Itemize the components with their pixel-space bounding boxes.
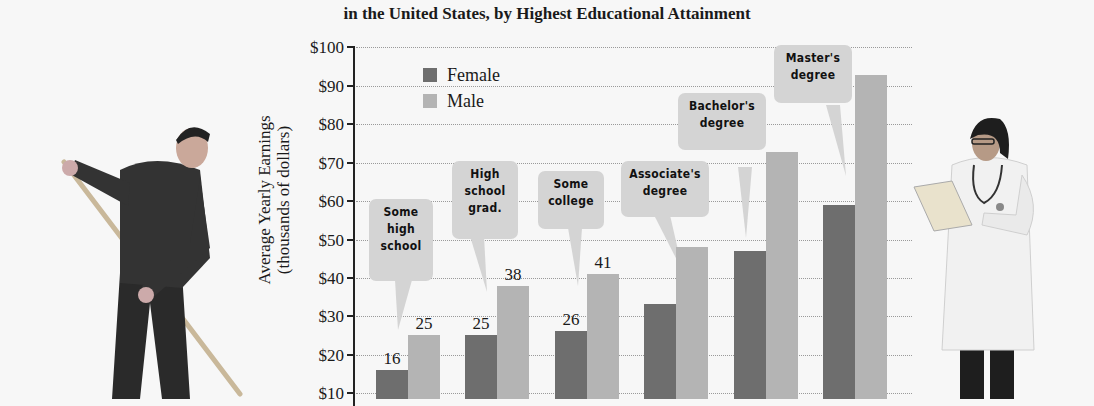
bar-male-associate: [676, 247, 708, 399]
bar-male-some-high-school: [408, 335, 440, 399]
bubble-text: school: [375, 238, 427, 255]
value-label: 16: [372, 350, 412, 367]
value-label: 38: [493, 266, 533, 283]
value-label: 25: [404, 315, 444, 332]
bubble-text: Associate's: [627, 166, 703, 183]
bar-male-hs-grad: [497, 286, 529, 399]
bar-male-master: [855, 75, 887, 399]
category-bubble-bachelor: Bachelor's degree: [678, 93, 766, 150]
bubble-text: Some: [375, 204, 427, 221]
bar-male-some-college: [587, 274, 619, 399]
category-bubble-hs-grad: High school grad.: [452, 161, 518, 239]
bar-female-some-college: [555, 331, 587, 399]
bar-female-associate: [644, 304, 676, 399]
category-bubble-associate: Associate's degree: [621, 161, 709, 217]
bubble-text: high: [375, 221, 427, 238]
bar-male-bachelor: [766, 152, 798, 399]
category-bubble-some-high-school: Some high school: [369, 199, 433, 281]
value-label: 41: [583, 254, 623, 271]
category-bubble-master: Master's degree: [774, 45, 852, 103]
bubble-text: Some: [544, 176, 598, 193]
bubble-text: degree: [684, 115, 760, 132]
bubble-text: Master's: [780, 50, 846, 67]
bar-female-bachelor: [734, 251, 766, 399]
value-label: 26: [551, 311, 591, 328]
bubble-text: High: [458, 166, 512, 183]
bubble-text: college: [544, 193, 598, 210]
bar-female-hs-grad: [465, 335, 497, 399]
bubble-text: grad.: [458, 200, 512, 217]
bubble-text: degree: [627, 183, 703, 200]
bubble-text: Bachelor's: [684, 98, 760, 115]
value-label: 25: [461, 315, 501, 332]
bubble-text: degree: [780, 67, 846, 84]
bubble-text: school: [458, 183, 512, 200]
bar-female-some-high-school: [376, 370, 408, 399]
category-bubble-some-college: Some college: [538, 171, 604, 229]
bar-female-master: [823, 205, 855, 399]
